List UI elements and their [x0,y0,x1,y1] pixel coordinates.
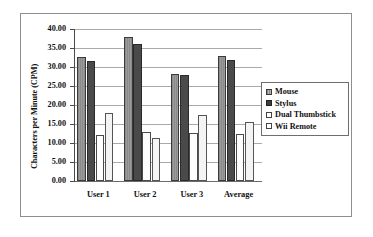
chart-legend: MouseStylusDual ThumbstickWii Remote [261,82,349,136]
plot-area [75,29,262,181]
y-axis-tick-label: 10.00 [16,138,66,147]
bar-groups [75,29,262,181]
x-axis-label: User 2 [122,190,169,199]
legend-item: Stylus [266,98,344,109]
y-axis-tick [70,86,74,87]
x-axis-label: User 3 [169,190,216,199]
bar [236,134,245,181]
y-axis-tick-label: 15.00 [16,119,66,128]
legend-swatch-icon [266,112,272,118]
bar-group [215,29,262,181]
bar [77,57,86,181]
bar [105,113,114,181]
legend-swatch-icon [266,100,272,106]
y-axis-tick-label: 5.00 [16,157,66,166]
y-axis-tick [70,124,74,125]
legend-item: Mouse [266,86,344,97]
gridline [75,181,262,182]
legend-label: Mouse [275,87,298,96]
bar [180,75,189,181]
y-axis-tick-label: 40.00 [16,24,66,33]
legend-label: Wii Remote [275,122,316,131]
y-axis-tick [70,48,74,49]
x-axis-label: User 1 [75,190,122,199]
legend-item: Wii Remote [266,121,344,132]
bar [198,115,207,182]
y-axis-tick [70,29,74,30]
bar [142,132,151,181]
y-axis-tick-label: 0.00 [16,176,66,185]
legend-item: Dual Thumbstick [266,109,344,120]
x-axis-label: Average [215,190,262,199]
legend-swatch-icon [266,89,272,95]
bar-group [122,29,169,181]
y-axis-tick-label: 25.00 [16,81,66,90]
y-axis-tick [70,67,74,68]
y-axis-tick-label: 20.00 [16,100,66,109]
y-axis-tick [70,105,74,106]
bar [189,133,198,181]
bar [124,37,133,181]
bar [218,56,227,181]
bar [87,61,96,181]
y-axis-tick [70,181,74,182]
bar [227,60,236,181]
legend-label: Dual Thumbstick [275,110,336,119]
bar [171,74,180,181]
y-axis-tick-label: 30.00 [16,62,66,71]
bar [152,138,161,181]
y-axis-tick-label: 35.00 [16,43,66,52]
y-axis-tick [70,143,74,144]
bar [96,135,105,181]
bar [245,122,254,181]
bar-group [75,29,122,181]
y-axis-tick [70,162,74,163]
chart-figure: Characters per Minute (CPM) 40.0035.0030… [0,0,373,237]
legend-swatch-icon [266,123,272,129]
bar [133,44,142,181]
bar-group [169,29,216,181]
legend-label: Stylus [275,99,296,108]
